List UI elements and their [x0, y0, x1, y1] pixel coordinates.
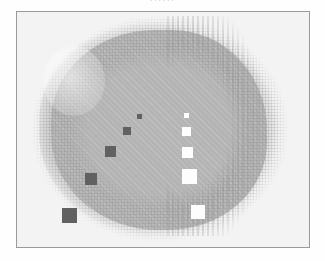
data-point-w4	[182, 169, 197, 184]
clipped-caption-above: ......	[0, 0, 325, 3]
plot-area	[17, 12, 309, 247]
data-point-w5	[191, 205, 205, 219]
figure-page: ......	[0, 0, 325, 261]
data-point-w3	[182, 147, 193, 158]
data-point-w1	[184, 113, 189, 118]
figure-frame	[16, 11, 310, 248]
data-point-d5	[62, 208, 77, 223]
data-point-w2	[182, 127, 191, 136]
data-point-d4	[85, 173, 97, 185]
blob-highlight	[43, 46, 105, 116]
data-point-d1	[137, 114, 142, 119]
data-point-d2	[123, 127, 131, 135]
data-point-d3	[105, 146, 116, 157]
